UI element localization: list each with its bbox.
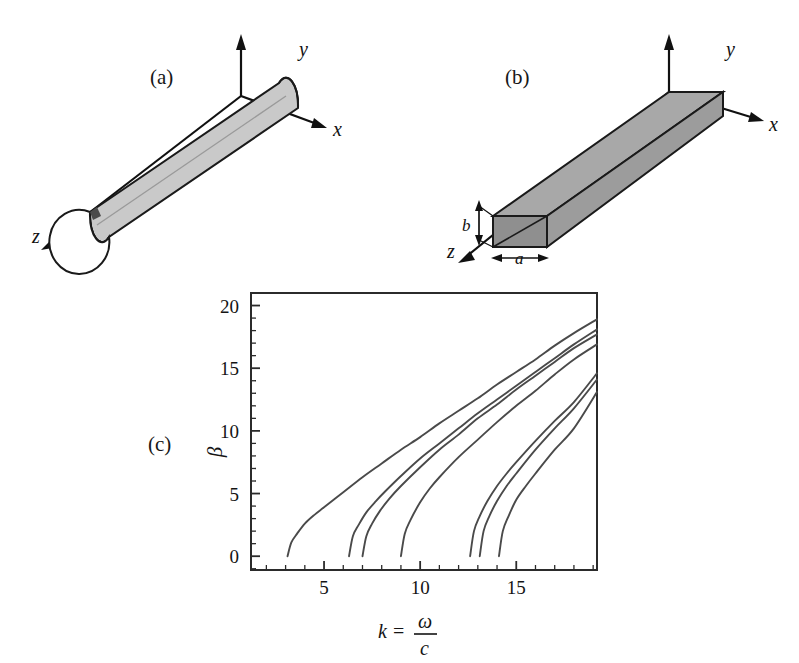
dispersion-curve xyxy=(499,392,597,556)
x-tick-label: 5 xyxy=(319,577,329,598)
y-axis-ticks xyxy=(251,293,260,569)
x-axis-title-denominator: c xyxy=(420,637,429,659)
x-tick-label: 15 xyxy=(507,577,526,598)
y-tick-label: 10 xyxy=(220,421,239,442)
x-axis-title-variable: k xyxy=(378,620,388,642)
dispersion-curves xyxy=(288,319,597,556)
dispersion-curve xyxy=(480,379,597,556)
y-axis-tick-labels: 05101520 xyxy=(220,296,239,568)
x-axis-tick-labels: 51015 xyxy=(319,577,525,598)
x-tick-label: 10 xyxy=(411,577,430,598)
y-axis-title: β xyxy=(203,446,227,458)
y-tick-label: 20 xyxy=(220,296,239,317)
y-tick-label: 5 xyxy=(230,484,240,505)
dispersion-curve xyxy=(288,319,597,556)
dispersion-chart: 51015 05101520 β k = ω c xyxy=(0,0,799,663)
x-axis-title-equals: = xyxy=(393,620,404,642)
y-tick-label: 0 xyxy=(230,546,240,567)
y-tick-label: 15 xyxy=(220,358,239,379)
x-axis-title-numerator: ω xyxy=(418,610,432,632)
x-axis-ticks xyxy=(266,561,593,570)
dispersion-curve xyxy=(470,373,597,556)
x-axis-title: k = ω c xyxy=(378,610,437,659)
